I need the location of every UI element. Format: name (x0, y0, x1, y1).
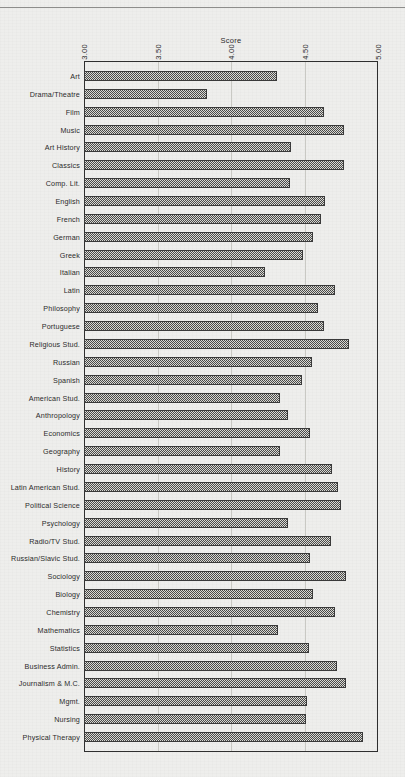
bar (84, 518, 288, 528)
bar-row: Classics (0, 156, 405, 174)
bar (84, 410, 288, 420)
bar-row: Journalism & M.C. (0, 674, 405, 692)
bar-row: Portuguese (0, 317, 405, 335)
bar (84, 661, 337, 671)
bar-row: Russian/Slavic Stud. (0, 549, 405, 567)
bar-row: Latin (0, 281, 405, 299)
bar-row: Latin American Stud. (0, 478, 405, 496)
category-label: Italian (60, 268, 80, 277)
x-axis-tick-label: 4.50 (301, 44, 310, 60)
bar-row: Religious Stud. (0, 335, 405, 353)
category-label: Philosophy (43, 304, 80, 313)
bar-row: German (0, 228, 405, 246)
bar (84, 375, 302, 385)
bar-row: Physical Therapy (0, 728, 405, 746)
category-label: Classics (52, 161, 80, 170)
x-axis-tick-label: 5.00 (374, 44, 383, 60)
bar (84, 643, 309, 653)
category-label: Portuguese (42, 322, 80, 331)
bar-row: Mathematics (0, 621, 405, 639)
category-label: Physical Therapy (23, 733, 80, 742)
category-label: Art History (45, 143, 80, 152)
bar (84, 696, 307, 706)
x-axis-tick-label: 4.00 (227, 44, 236, 60)
bar-row: Spanish (0, 371, 405, 389)
category-label: Radio/TV Stud. (29, 537, 80, 546)
category-label: English (55, 197, 80, 206)
category-label: Spanish (53, 376, 80, 385)
bar (84, 607, 335, 617)
category-label: Journalism & M.C. (19, 679, 80, 688)
bar-row: History (0, 460, 405, 478)
bar (84, 178, 290, 188)
category-label: Chemistry (46, 608, 80, 617)
category-label: Latin American Stud. (11, 483, 80, 492)
category-label: Economics (43, 429, 80, 438)
bar (84, 232, 313, 242)
category-label: Psychology (42, 519, 80, 528)
category-label: Russian/Slavic Stud. (11, 554, 80, 563)
category-label: Latin (64, 286, 80, 295)
bar (84, 214, 321, 224)
x-axis-tick-label: 3.00 (80, 44, 89, 60)
bar-row: Sociology (0, 567, 405, 585)
bar-row: American Stud. (0, 389, 405, 407)
bar (84, 89, 207, 99)
category-label: Film (66, 108, 80, 117)
bar-row: Italian (0, 263, 405, 281)
bar (84, 321, 324, 331)
bar-row: Geography (0, 442, 405, 460)
category-label: American Stud. (29, 394, 80, 403)
bar-row: Russian (0, 353, 405, 371)
bar-row: Nursing (0, 710, 405, 728)
bar-row: Business Admin. (0, 657, 405, 675)
category-label: Business Admin. (25, 662, 80, 671)
bar-row: Anthropology (0, 406, 405, 424)
bar (84, 142, 291, 152)
bar-row: Psychology (0, 514, 405, 532)
bar-row: Drama/Theatre (0, 85, 405, 103)
bar (84, 160, 344, 170)
bar-row: Comp. Lit. (0, 174, 405, 192)
bar (84, 732, 363, 742)
bar-row: French (0, 210, 405, 228)
category-label: Geography (43, 447, 80, 456)
category-label: Nursing (54, 715, 80, 724)
bar-row: Art History (0, 138, 405, 156)
category-label: Political Science (25, 501, 80, 510)
bar (84, 303, 318, 313)
bar-row: Film (0, 103, 405, 121)
bar (84, 125, 344, 135)
bar (84, 714, 306, 724)
bar (84, 250, 303, 260)
bar-row: Economics (0, 424, 405, 442)
bar (84, 446, 280, 456)
bar-row: English (0, 192, 405, 210)
bar (84, 393, 280, 403)
bar (84, 428, 310, 438)
bar-row: Biology (0, 585, 405, 603)
bar-row: Art (0, 67, 405, 85)
bar-row: Philosophy (0, 299, 405, 317)
category-label: Sociology (47, 572, 80, 581)
category-label: Russian (53, 358, 80, 367)
bar-chart-figure: 3.003.504.004.505.00 Score ArtDrama/Thea… (0, 0, 405, 777)
bar-row: Greek (0, 246, 405, 264)
bar-row: Music (0, 121, 405, 139)
category-label: Mgmt. (59, 697, 80, 706)
bar-row: Radio/TV Stud. (0, 532, 405, 550)
bar-rows-container: ArtDrama/TheatreFilmMusicArt HistoryClas… (0, 61, 405, 752)
bar (84, 553, 310, 563)
bar-row: Chemistry (0, 603, 405, 621)
bar (84, 464, 332, 474)
bar (84, 500, 341, 510)
bar (84, 196, 325, 206)
category-label: French (57, 215, 80, 224)
bar (84, 625, 278, 635)
category-label: Comp. Lit. (46, 179, 80, 188)
category-label: Music (60, 126, 80, 135)
category-label: History (57, 465, 80, 474)
bar (84, 339, 349, 349)
bar (84, 571, 346, 581)
category-label: Drama/Theatre (30, 90, 80, 99)
